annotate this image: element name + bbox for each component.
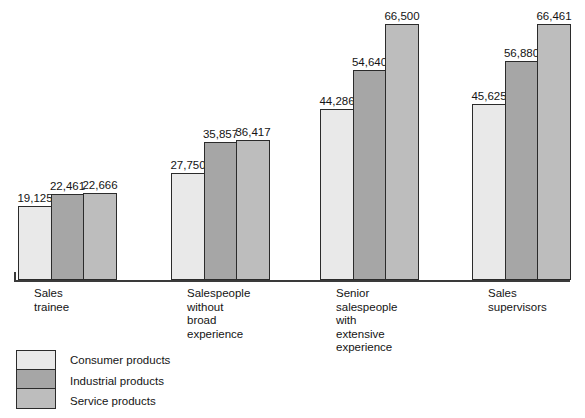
legend-swatch [17,351,55,370]
bar-value-label: 66,500 [384,10,419,23]
legend-label-list: Consumer productsIndustrial productsServ… [70,350,170,412]
bar-value-label: 54,640 [352,56,387,69]
bar: 54,640 [353,70,387,280]
bar: 22,666 [83,193,117,280]
bar-value-label: 36,417 [235,126,270,139]
legend-label: Consumer products [70,350,170,371]
bar: 35,857 [204,142,238,280]
bar: 19,125 [18,206,52,280]
category-label: Sales supervisors [488,287,547,314]
category-label: Senior salespeople with extensive experi… [336,287,397,355]
bar-value-label: 56,880 [504,47,539,60]
bar: 22,461 [51,194,85,280]
category-label: Sales trainee [34,287,69,314]
axis-tick-left [14,272,16,281]
bar: 56,880 [505,61,539,280]
bar: 66,500 [385,24,419,280]
bar-group-bars: 19,12522,46122,666 [18,193,116,280]
legend-swatch-box [16,350,56,409]
bar-group-bars: 45,62556,88066,461 [472,24,570,280]
plot-area: 19,12522,46122,66627,75035,85736,41744,2… [0,0,585,282]
bar: 36,417 [236,140,270,280]
bar-value-label: 22,461 [50,180,85,193]
legend-swatch [17,370,55,389]
bar-value-label: 35,857 [203,128,238,141]
legend-label: Industrial products [70,371,170,392]
bar-value-label: 27,750 [170,159,205,172]
bar: 45,625 [472,104,506,280]
bar: 27,750 [171,173,205,280]
bar-value-label: 45,625 [471,90,506,103]
bar-group-bars: 44,28654,64066,500 [320,24,418,280]
bar-value-label: 19,125 [17,192,52,205]
bar: 44,286 [320,109,354,280]
grouped-bar-chart: 19,12522,46122,66627,75035,85736,41744,2… [0,0,585,418]
legend-label: Service products [70,391,170,412]
legend-swatch [17,389,55,408]
category-label: Salespeople without broad experience [187,287,250,341]
bar-group-bars: 27,75035,85736,417 [171,140,269,280]
bar-value-label: 22,666 [82,179,117,192]
bar-value-label: 66,461 [536,10,571,23]
bar-value-label: 44,286 [319,95,354,108]
bar: 66,461 [537,24,571,280]
category-axis-line [14,280,570,282]
